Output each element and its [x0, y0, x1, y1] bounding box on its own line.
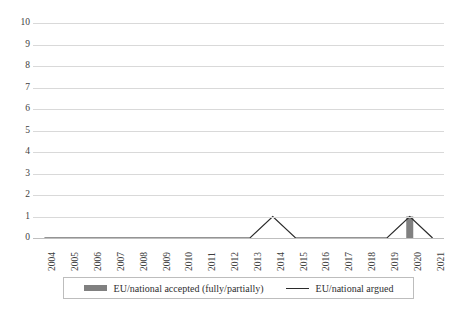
x-axis-tick-label: 2005 — [61, 239, 73, 273]
legend-label-argued: EU/national argued — [316, 283, 394, 294]
y-axis-tick-label: 0 — [4, 233, 30, 243]
legend-item-argued: EU/national argued — [286, 283, 394, 294]
legend-label-accepted: EU/national accepted (fully/partially) — [114, 283, 264, 294]
x-axis-tick-label: 2009 — [153, 239, 165, 273]
gridline — [33, 152, 444, 153]
y-axis-tick-label: 8 — [4, 61, 30, 71]
x-axis-tick-label: 2016 — [312, 239, 324, 273]
gridline — [33, 109, 444, 110]
y-axis: 109876543210 — [0, 0, 30, 240]
x-axis-tick-label: 2011 — [198, 239, 210, 273]
x-axis-tick-label: 2008 — [130, 239, 142, 273]
gridline — [33, 174, 444, 175]
x-axis-tick-label: 2015 — [290, 239, 302, 273]
legend-item-accepted: EU/national accepted (fully/partially) — [84, 283, 264, 294]
line-series-path — [44, 217, 432, 239]
gridline — [33, 131, 444, 132]
bar-series-group — [406, 217, 413, 239]
y-axis-tick-label: 3 — [4, 169, 30, 179]
x-axis-tick-label: 2004 — [38, 239, 50, 273]
y-axis-tick-label: 1 — [4, 212, 30, 222]
y-axis-tick-label: 5 — [4, 126, 30, 136]
plot-area — [33, 23, 444, 238]
x-axis-tick-label: 2021 — [427, 239, 439, 273]
x-axis: 2004200520062007200820092010201120122013… — [33, 239, 444, 275]
x-axis-tick-label: 2012 — [221, 239, 233, 273]
gridline — [33, 195, 444, 196]
x-axis-tick-label: 2014 — [267, 239, 279, 273]
bar-swatch-icon — [84, 285, 107, 291]
x-axis-tick-label: 2006 — [84, 239, 96, 273]
y-axis-tick-label: 9 — [4, 40, 30, 50]
x-axis-tick-label: 2019 — [381, 239, 393, 273]
y-axis-tick-label: 2 — [4, 190, 30, 200]
bar-2020 — [406, 217, 413, 239]
chart-legend: EU/national accepted (fully/partially) E… — [63, 277, 414, 299]
x-axis-tick-label: 2020 — [404, 239, 416, 273]
gridline — [33, 23, 444, 24]
gridline — [33, 66, 444, 67]
chart-container: 109876543210 200420052006200720082009201… — [0, 0, 463, 311]
gridline — [33, 45, 444, 46]
x-axis-tick-label: 2017 — [335, 239, 347, 273]
x-axis-tick-label: 2018 — [358, 239, 370, 273]
y-axis-tick-label: 7 — [4, 83, 30, 93]
gridline — [33, 88, 444, 89]
gridline — [33, 217, 444, 218]
x-axis-tick-label: 2013 — [244, 239, 256, 273]
line-swatch-icon — [286, 288, 309, 289]
x-axis-tick-label: 2007 — [107, 239, 119, 273]
x-axis-tick-label: 2010 — [175, 239, 187, 273]
y-axis-tick-label: 10 — [4, 18, 30, 28]
y-axis-tick-label: 6 — [4, 104, 30, 114]
y-axis-tick-label: 4 — [4, 147, 30, 157]
